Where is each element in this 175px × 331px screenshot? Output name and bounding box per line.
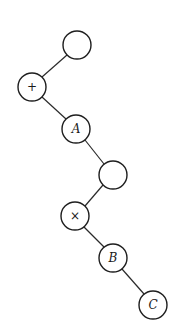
times-operator-label: ×: [70, 209, 80, 223]
tree-node-a: A: [62, 115, 90, 143]
tree-node-times: ×: [61, 202, 89, 230]
tree-node-b: B: [99, 244, 127, 272]
plus-operator-label: +: [27, 80, 37, 94]
variable-c-label: C: [148, 298, 157, 312]
edge-empty-to-times: [85, 185, 103, 206]
edge-a-to-empty: [85, 140, 104, 164]
edge-times-to-b: [84, 227, 104, 247]
tree-node-plus: +: [18, 73, 46, 101]
variable-b-label: B: [108, 251, 118, 265]
edges: [42, 55, 144, 294]
edge-plus-to-a: [42, 97, 66, 119]
node-circle: [63, 31, 91, 59]
tree-node-c: C: [139, 291, 167, 319]
tree-node-root: [63, 31, 91, 59]
edge-root-to-plus: [42, 55, 67, 77]
tree-node-empty: [99, 161, 127, 189]
node-circle: [99, 161, 127, 189]
edge-b-to-c: [122, 269, 144, 294]
expression-tree: + A × B C: [0, 0, 175, 331]
variable-a-label: A: [71, 122, 81, 136]
